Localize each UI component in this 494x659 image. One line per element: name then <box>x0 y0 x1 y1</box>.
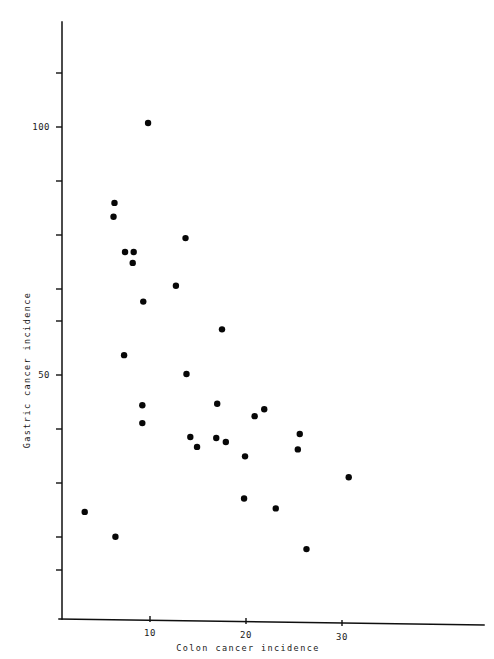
plot-canvas: 100 50 10 20 30 Colon cancer incidence G… <box>0 0 494 659</box>
data-point <box>140 298 146 304</box>
data-point <box>139 402 145 408</box>
data-point <box>130 260 136 266</box>
data-point <box>182 235 188 241</box>
data-point <box>122 249 128 255</box>
data-point <box>219 326 225 332</box>
data-point <box>213 435 219 441</box>
data-point <box>303 546 309 552</box>
data-point <box>130 249 136 255</box>
data-point <box>223 439 229 445</box>
data-point <box>194 444 200 450</box>
data-point <box>183 371 189 377</box>
data-point <box>346 474 352 480</box>
data-point <box>173 283 179 289</box>
y-axis-ticks <box>56 73 62 570</box>
data-point <box>242 453 248 459</box>
x-tick-label-20: 20 <box>240 630 252 640</box>
data-point <box>145 120 151 126</box>
data-point <box>295 446 301 452</box>
y-tick-label-50: 50 <box>38 370 50 380</box>
data-point <box>214 401 220 407</box>
x-tick-label-10: 10 <box>144 628 156 638</box>
data-point <box>187 434 193 440</box>
data-point <box>251 413 257 419</box>
data-point <box>110 214 116 220</box>
data-point <box>82 509 88 515</box>
data-point <box>297 431 303 437</box>
data-point <box>112 534 118 540</box>
data-point <box>121 352 127 358</box>
y-axis-title: Gastric cancer incidence <box>22 292 32 448</box>
y-tick-label-100: 100 <box>32 122 50 132</box>
x-axis-line <box>59 619 484 625</box>
data-point <box>139 420 145 426</box>
data-points-layer <box>82 120 352 552</box>
x-axis-title: Colon cancer incidence <box>176 643 319 653</box>
scatter-plot-figure: 100 50 10 20 30 Colon cancer incidence G… <box>0 0 494 659</box>
data-point <box>111 200 117 206</box>
x-tick-label-30: 30 <box>336 632 348 642</box>
data-point <box>241 495 247 501</box>
data-point <box>261 406 267 412</box>
data-point <box>273 505 279 511</box>
